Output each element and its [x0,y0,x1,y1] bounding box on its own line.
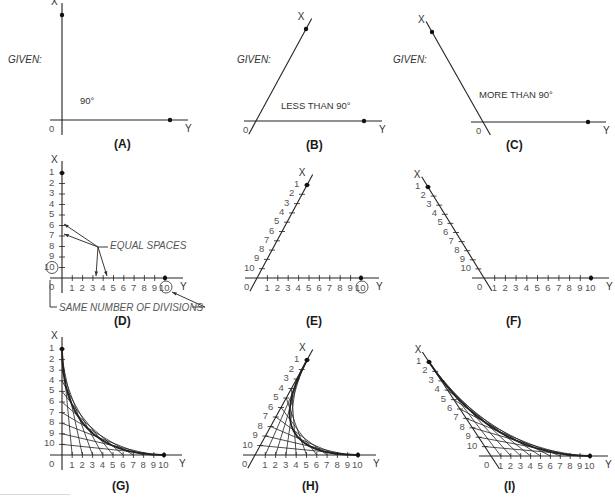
x-tick-label-i-10: 10 [467,441,478,451]
origin-label-e: 0 [244,282,249,292]
equal-spaces-arrow-4-head [104,271,107,276]
y-tick-label-g-1: 1 [69,460,74,470]
x-tick-label-i-1: 1 [416,356,421,366]
x-tick-label-d-2: 2 [49,178,54,188]
x-axis-line-e [250,174,313,291]
x-tick-label-g-3: 3 [49,364,54,374]
x-axis-label-i: X [415,345,422,355]
x-tick-label-g-2: 2 [49,354,54,364]
x-axis-label-a: X [51,0,58,7]
x-tick-label-h-7: 7 [263,411,268,421]
x-tick-label-d-6: 6 [49,220,54,230]
y-tick-label-d-3: 3 [90,283,95,293]
y-tick-label-d-6: 6 [121,283,126,293]
y-tick-label-g-5: 5 [110,460,115,470]
parabolic-curve-i [429,362,590,456]
angle-label-b: LESS THAN 90° [281,101,351,111]
y-tick-label-h-10: 10 [352,460,363,470]
equal-spaces-note: EQUAL SPACES [110,241,186,251]
endpoint-dots [60,13,593,458]
caption-f: (F) [506,315,521,327]
y-tick-label-f-3: 3 [513,283,518,293]
x-tick-label-e-2: 2 [289,188,294,198]
y-tick-label-d-1: 1 [69,283,74,293]
x-tick-label-g-5: 5 [49,385,54,395]
y-axis-label-h: Y [373,459,380,469]
y-tick-label-e-3: 3 [285,283,290,293]
origin-label-i: 0 [484,460,489,470]
y-tick-label-g-4: 4 [100,460,105,470]
x-tick-label-f-2: 2 [421,190,426,200]
x-axis-label-b: X [298,12,305,22]
y-tick-label-i-3: 3 [518,461,523,471]
y-axis-label-a: Y [185,124,192,134]
y-tick-label-h-5: 5 [304,460,309,470]
origin-label-d: 0 [49,282,54,292]
y-tick-label-h-8: 8 [334,460,339,470]
y-tick-label-i-7: 7 [557,461,562,471]
y-tick-label-g-9: 9 [151,460,156,470]
x-point-dot-f [426,185,430,189]
y-point-dot-a [168,118,172,122]
given-label-c: GIVEN: [393,55,427,65]
y-tick-label-i-1: 1 [498,461,503,471]
x-tick-label-f-4: 4 [432,208,437,218]
x-tick-label-h-10: 10 [242,440,253,450]
y-tick-label-e-8: 8 [337,283,342,293]
caption-c: (C) [506,139,523,151]
origin-label-h: 0 [242,459,247,469]
x-tick-label-g-4: 4 [49,375,54,385]
y-tick-label-i-2: 2 [508,461,513,471]
parabolic-curve-g [62,349,164,455]
y-tick-label-g-7: 7 [130,460,135,470]
x-point-dot-b [304,27,308,31]
x-tick-label-e-6: 6 [269,226,274,236]
y-tick-label-g-6: 6 [120,460,125,470]
angle-label-a: 90° [80,96,94,106]
y-tick-label-e-5: 5 [306,283,311,293]
x-tick-label-i-8: 8 [459,422,464,432]
y-tick-label-e-1: 1 [264,283,269,293]
x-tick-label-e-9: 9 [254,253,259,263]
x-point-dot-e [305,183,309,187]
x-tick-label-g-9: 9 [49,428,54,438]
y-tick-label-d-4: 4 [100,283,105,293]
equal-spaces-arrow-1-head [64,224,69,228]
caption-g: (G) [112,480,129,492]
y-axis-label-g: Y [179,459,186,469]
y-tick-label-d-2: 2 [80,283,85,293]
caption-e: (E) [306,315,322,327]
x-tick-label-d-3: 3 [49,188,54,198]
diagram-canvas [0,0,615,500]
y-tick-label-e-7: 7 [327,283,332,293]
x-tick-label-i-7: 7 [453,412,458,422]
x-point-dot-h [305,358,309,362]
x-tick-label-g-8: 8 [49,417,54,427]
x-axis-label-f: X [414,170,421,180]
y-tick-label-h-9: 9 [345,460,350,470]
x-tick-label-d-4: 4 [49,199,54,209]
y-tick-label-h-7: 7 [324,460,329,470]
caption-h: (H) [302,480,319,492]
y-tick-label-d-7: 7 [131,283,136,293]
y-tick-label-g-3: 3 [90,460,95,470]
y-tick-label-i-5: 5 [538,461,543,471]
y-tick-label-h-3: 3 [283,460,288,470]
y-tick-label-d-10: 10 [159,283,170,293]
origin-label-g: 0 [49,459,54,469]
given-label-a: GIVEN: [8,55,42,65]
x-tick-label-g-7: 7 [49,407,54,417]
x-axis-label-h: X [299,343,306,353]
x-tick-label-e-10: 10 [244,263,255,273]
divisions-arrow-head [172,292,177,296]
caption-i: (I) [504,480,515,492]
x-tick-label-g-6: 6 [49,396,54,406]
x-point-dot-d [60,171,64,175]
y-tick-label-f-8: 8 [567,283,572,293]
x-tick-label-e-3: 3 [284,198,289,208]
x-tick-label-h-6: 6 [268,402,273,412]
x-axis-label-c: X [418,15,425,25]
x-tick-label-f-1: 1 [415,181,420,191]
y-tick-label-e-6: 6 [316,283,321,293]
origin-label-c: 0 [476,126,481,136]
